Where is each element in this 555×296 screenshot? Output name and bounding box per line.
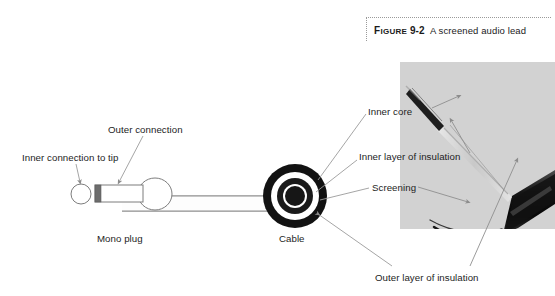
label-inner-connection-to-tip: Inner connection to tip	[22, 152, 118, 163]
plug-insulating-ring	[95, 185, 101, 202]
label-screening: Screening	[372, 182, 416, 193]
leader-photo-outer-layer	[470, 160, 517, 266]
leader-photo-inner-core	[432, 96, 459, 108]
label-outer-connection: Outer connection	[108, 124, 183, 135]
label-outer-layer-of-insulation: Outer layer of insulation	[375, 272, 479, 283]
leader-inner-layer	[316, 160, 357, 192]
label-cable: Cable	[279, 233, 305, 244]
leader-screening	[320, 188, 369, 200]
plug-shaft	[95, 185, 143, 202]
label-mono-plug: Mono plug	[97, 233, 143, 244]
figure-page: FIGURE 9-2 A screened audio lead	[0, 0, 555, 296]
leader-photo-screening	[418, 187, 468, 202]
leader-inner-connection	[76, 164, 80, 182]
label-inner-layer-of-insulation: Inner layer of insulation	[359, 151, 460, 162]
plug-tip	[71, 184, 91, 204]
leader-inner-core	[318, 114, 366, 180]
leader-outer-layer	[318, 214, 392, 266]
cable-cross-section	[263, 164, 327, 228]
diagram-artwork	[0, 0, 555, 296]
mono-plug	[71, 178, 172, 210]
label-inner-core: Inner core	[368, 106, 412, 117]
ring-inner-core	[285, 186, 305, 206]
leader-lines-photo	[418, 96, 517, 266]
leader-photo-inner-layer	[451, 120, 470, 153]
leader-outer-connection	[119, 136, 143, 182]
